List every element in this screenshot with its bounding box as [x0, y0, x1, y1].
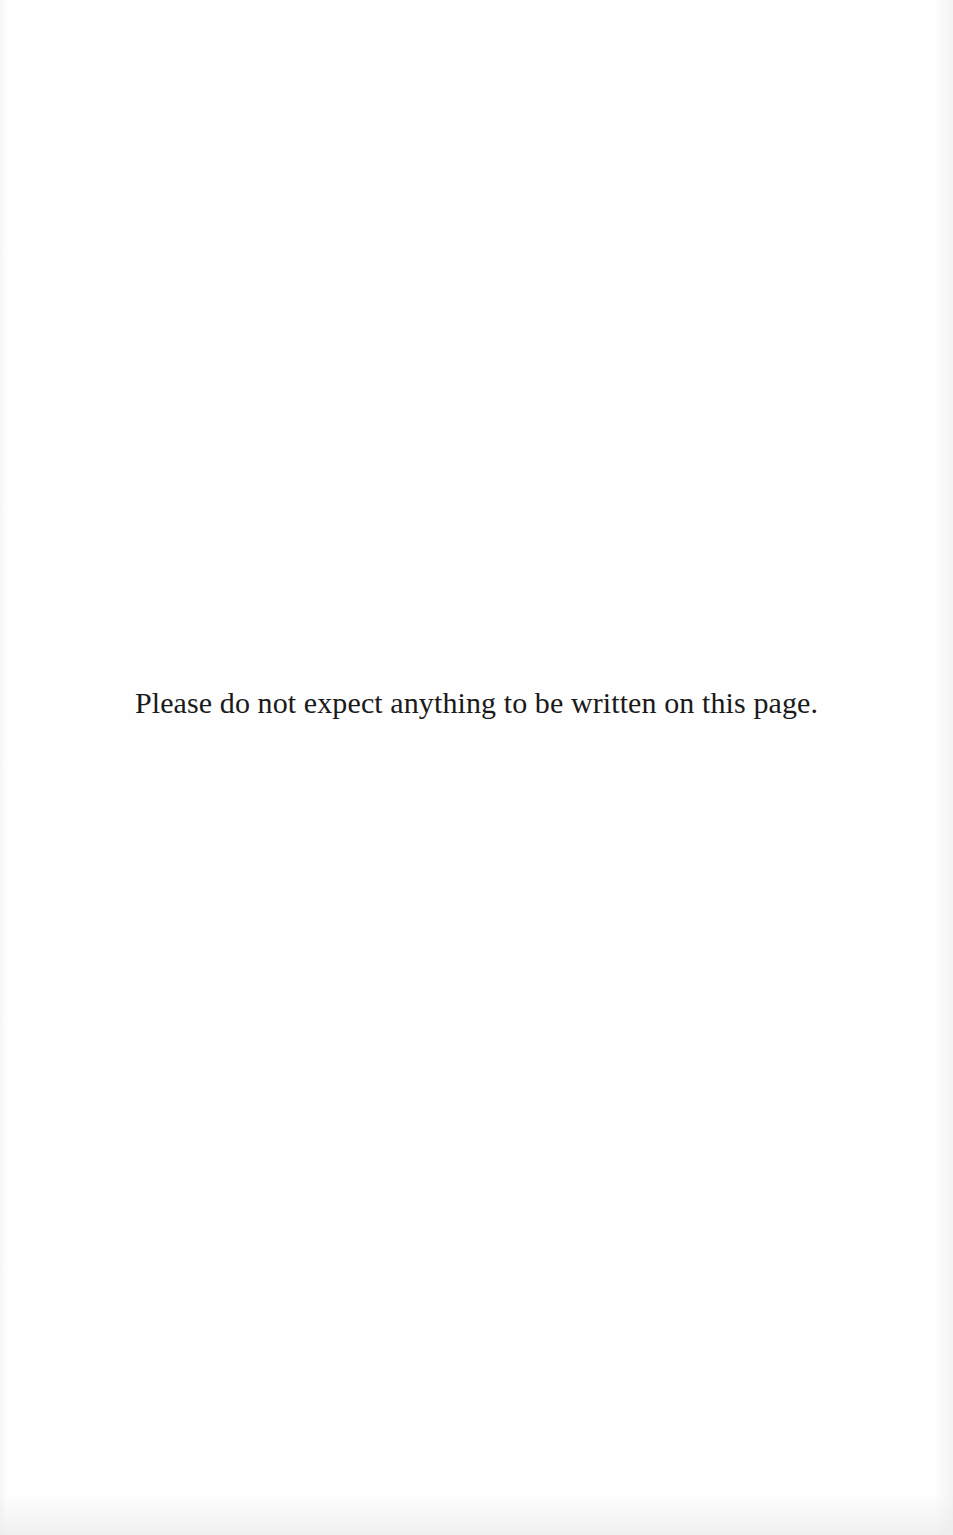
page-edge-right-shadow [935, 0, 953, 1535]
blank-page-notice: Please do not expect anything to be writ… [0, 683, 953, 723]
blank-page: Please do not expect anything to be writ… [0, 0, 953, 1535]
page-edge-bottom-shadow [0, 1495, 953, 1535]
page-edge-left-shadow [0, 0, 6, 1535]
